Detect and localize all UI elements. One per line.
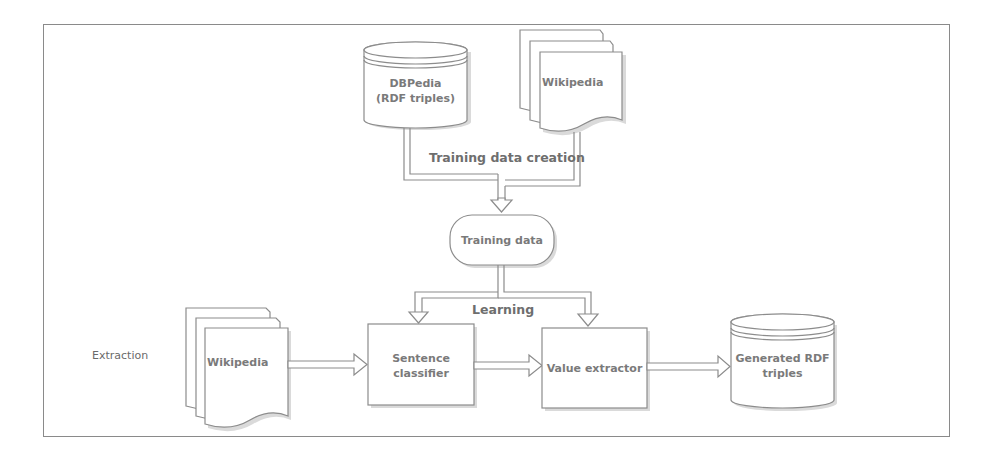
arrow-classifier-to-extractor — [474, 355, 542, 376]
generated-rdf-label-line2: triples — [731, 366, 834, 381]
value-extractor-label: Value extractor — [542, 361, 647, 376]
learning-label: Learning — [472, 302, 534, 317]
sentence-classifier-label-line1: Sentence — [368, 351, 474, 366]
wikipedia-bottom-label: Wikipedia — [207, 355, 268, 370]
generated-rdf-label-line1: Generated RDF — [731, 351, 834, 366]
diagram-canvas: .st { fill: #ffffff; stroke: #8c8c8c; st… — [0, 0, 983, 462]
dbpedia-label: DBPedia (RDF triples) — [364, 76, 467, 106]
dbpedia-label-line1: DBPedia — [364, 76, 467, 91]
extraction-section-label: Extraction — [92, 349, 148, 362]
sentence-classifier-label: Sentence classifier — [368, 351, 474, 381]
sentence-classifier-label-line2: classifier — [368, 366, 474, 381]
dbpedia-label-line2: (RDF triples) — [364, 91, 467, 106]
wikipedia-top-label: Wikipedia — [542, 75, 603, 90]
arrow-wikipedia-to-classifier — [288, 354, 367, 375]
arrow-extractor-to-rdf — [647, 356, 730, 377]
connector-training-data-creation — [404, 128, 580, 212]
training-data-creation-label: Training data creation — [429, 150, 585, 165]
training-data-label: Training data — [450, 233, 554, 248]
generated-rdf-label: Generated RDF triples — [731, 351, 834, 381]
